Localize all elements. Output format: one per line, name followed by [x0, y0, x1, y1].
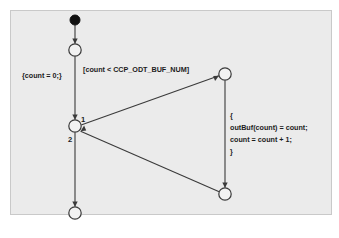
state-node-a — [69, 44, 81, 56]
action-block-line-4: } — [230, 147, 233, 156]
state-node-end — [69, 207, 81, 219]
state-node-top-right — [219, 68, 231, 80]
diagram-frame — [11, 11, 332, 215]
guard-label: [count < CCP_ODT_BUF_NUM] — [83, 65, 189, 74]
branch-node — [69, 120, 81, 132]
diagram-canvas: {count = 0;} [count < CCP_ODT_BUF_NUM] 1… — [0, 0, 339, 238]
action-block-line-3: count = count + 1; — [230, 135, 292, 144]
state-node-bottom-right — [219, 188, 231, 200]
action-block-line-1: { — [230, 111, 233, 120]
initial-node — [70, 15, 80, 25]
state-diagram: {count = 0;} [count < CCP_ODT_BUF_NUM] 1… — [0, 0, 339, 238]
branch-label-two: 2 — [68, 135, 72, 144]
init-action-label: {count = 0;} — [22, 71, 62, 80]
action-block-line-2: outBuf(count) = count; — [230, 123, 308, 132]
